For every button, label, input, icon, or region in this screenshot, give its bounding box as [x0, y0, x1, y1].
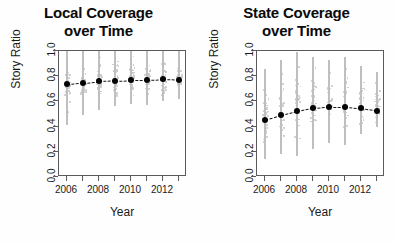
error-bar [312, 57, 313, 149]
x-tick-mark [82, 176, 83, 181]
mean-data-point [342, 104, 348, 110]
panel-local-coverage: Local Coverage over Time Story Ratio Yea… [0, 0, 197, 242]
scatter-point [347, 115, 349, 117]
x-tick-label: 2012 [343, 184, 377, 195]
scatter-point [378, 95, 380, 97]
error-bar [344, 57, 345, 145]
mean-data-point [112, 78, 118, 84]
scatter-point [148, 88, 150, 90]
scatter-point [283, 119, 285, 121]
scatter-point [314, 100, 316, 102]
y-tick-label: 0.2 [46, 137, 57, 163]
scatter-point [149, 70, 151, 72]
scatter-point [282, 91, 284, 93]
scatter-point [298, 66, 300, 68]
y-tick-label: 0.2 [244, 137, 255, 163]
mean-data-point [374, 108, 380, 114]
scatter-point [315, 86, 317, 88]
scatter-point [379, 106, 381, 108]
x-tick-label: 2006 [49, 184, 83, 195]
scatter-point [363, 119, 365, 121]
scatter-point [346, 82, 348, 84]
y-tick-label: 0.6 [244, 87, 255, 113]
scatter-point [299, 101, 301, 103]
y-tick-label: 0.6 [46, 87, 57, 113]
x-tick-mark [98, 176, 99, 181]
x-tick-mark [162, 176, 163, 181]
scatter-point [85, 91, 87, 93]
scatter-point [165, 72, 167, 74]
error-bar [280, 60, 281, 155]
scatter-point [116, 85, 118, 87]
scatter-point [68, 111, 70, 113]
scatter-point [315, 110, 317, 112]
scatter-point [117, 61, 119, 63]
y-tick-label: 1.0 [46, 37, 57, 63]
scatter-point [85, 73, 87, 75]
scatter-point [314, 115, 316, 117]
scatter-point [314, 82, 316, 84]
scatter-point [267, 112, 269, 114]
scatter-point [363, 100, 365, 102]
scatter-point [315, 67, 317, 69]
panel-state-coverage: State Coverage over Time Story Ratio Yea… [198, 0, 395, 242]
scatter-point [133, 95, 135, 97]
x-tick-label: 2010 [113, 184, 147, 195]
x-tick-mark [344, 176, 345, 181]
x-tick-mark [66, 176, 67, 181]
scatter-point [165, 89, 167, 91]
panel-state-title: State Coverage over Time [198, 4, 395, 40]
scatter-point [69, 101, 71, 103]
scatter-point [298, 95, 300, 97]
y-tick-label: 1.0 [244, 37, 255, 63]
y-tick-label: 0.4 [46, 112, 57, 138]
scatter-point [363, 117, 365, 119]
scatter-point [347, 77, 349, 79]
scatter-point [133, 56, 135, 58]
scatter-point [68, 77, 70, 79]
x-tick-mark [178, 176, 179, 181]
x-tick-mark [360, 176, 361, 181]
x-tick-mark [312, 176, 313, 181]
scatter-point [266, 127, 268, 129]
scatter-point [298, 83, 300, 85]
scatter-point [116, 93, 118, 95]
scatter-point [300, 86, 302, 88]
scatter-point [100, 83, 102, 85]
mean-data-point [80, 80, 86, 86]
x-tick-label: 2008 [81, 184, 115, 195]
scatter-point [267, 115, 269, 117]
x-tick-label: 2008 [279, 184, 313, 195]
scatter-point [363, 97, 365, 99]
scatter-point [378, 101, 380, 103]
scatter-point [330, 114, 332, 116]
scatter-point [363, 93, 365, 95]
scatter-point [379, 98, 381, 100]
x-tick-mark [328, 176, 329, 181]
scatter-point [346, 92, 348, 94]
x-tick-mark [114, 176, 115, 181]
scatter-point [379, 113, 381, 115]
scatter-point [298, 119, 300, 121]
panel-local-data-layer [59, 51, 185, 175]
scatter-point [266, 107, 268, 109]
scatter-point [268, 98, 270, 100]
scatter-point [347, 87, 349, 89]
figure-root: Local Coverage over Time Story Ratio Yea… [0, 0, 395, 242]
scatter-point [283, 127, 285, 129]
mean-data-point [278, 112, 284, 118]
mean-data-point [128, 77, 134, 83]
scatter-point [330, 73, 332, 75]
x-tick-mark [280, 176, 281, 181]
panel-state-title-line1: State Coverage [243, 4, 349, 21]
panel-local-plot-area [58, 50, 186, 176]
panel-state-plot-area [256, 50, 384, 176]
panel-state-ylabel: Story Ratio [207, 0, 221, 119]
scatter-point [346, 125, 348, 127]
error-bar [264, 69, 265, 160]
scatter-point [266, 136, 268, 138]
panel-local-ylabel: Story Ratio [9, 0, 23, 119]
mean-data-point [294, 108, 300, 114]
scatter-point [100, 75, 102, 77]
scatter-point [331, 98, 333, 100]
